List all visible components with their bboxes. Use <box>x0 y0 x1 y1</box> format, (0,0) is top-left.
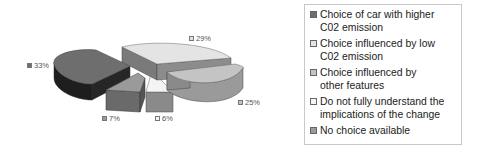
legend-item-other-features: Choice influenced byother features <box>310 66 462 92</box>
legend-swatch-icon <box>310 40 317 47</box>
legend-item-no-choice: No choice available <box>310 124 462 137</box>
data-label-text: 6% <box>162 114 173 123</box>
label-swatch-icon <box>189 36 194 41</box>
data-label-29: 29% <box>189 34 211 43</box>
legend-swatch-icon <box>310 69 317 76</box>
chart-legend: Choice of car with higherC02 emission Ch… <box>304 4 462 145</box>
legend-item-do-not-understand: Do not fully understand theimplications … <box>310 95 462 121</box>
legend-label: Choice influenced by lowC02 emission <box>320 37 435 63</box>
legend-label: Choice influenced byother features <box>320 66 416 92</box>
label-swatch-icon <box>102 116 107 121</box>
data-label-33: 33% <box>27 61 49 70</box>
data-label-25: 25% <box>238 98 260 107</box>
label-swatch-icon <box>155 116 160 121</box>
label-swatch-icon <box>238 100 243 105</box>
data-label-text: 29% <box>196 34 211 43</box>
legend-swatch-icon <box>310 11 317 18</box>
data-label-6: 6% <box>155 114 173 123</box>
pie-chart-graphic <box>0 0 300 154</box>
legend-item-low-co2: Choice influenced by lowC02 emission <box>310 37 462 63</box>
pie-chart: 33% 29% 25% 6% 7% <box>0 0 300 154</box>
legend-swatch-icon <box>310 98 317 105</box>
data-label-text: 25% <box>245 98 260 107</box>
legend-swatch-icon <box>310 127 317 134</box>
label-swatch-icon <box>27 63 32 68</box>
legend-label: No choice available <box>320 124 410 137</box>
legend-label: Do not fully understand theimplications … <box>320 95 444 121</box>
legend-label: Choice of car with higherC02 emission <box>320 8 434 34</box>
data-label-text: 33% <box>34 61 49 70</box>
legend-item-higher-co2: Choice of car with higherC02 emission <box>310 8 462 34</box>
data-label-text: 7% <box>109 114 120 123</box>
data-label-7: 7% <box>102 114 120 123</box>
